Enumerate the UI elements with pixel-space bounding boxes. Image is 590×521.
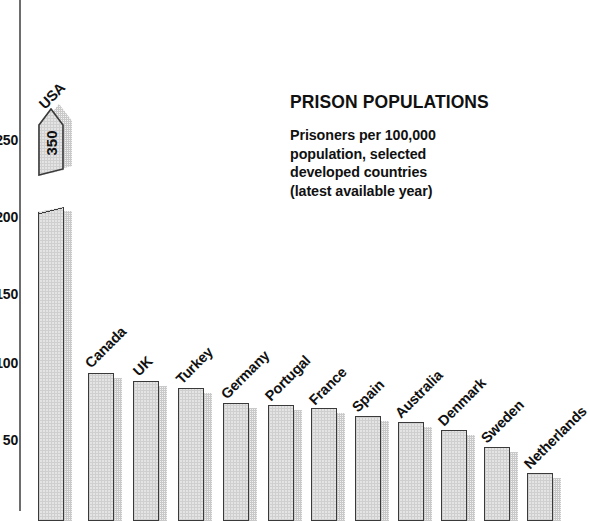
y-axis-tick-labels: 25020015010050 (0, 0, 18, 511)
bar-label-sweden: Sweden (478, 397, 527, 446)
chart-subtitle-line: Prisoners per 100,000 (290, 126, 500, 145)
bar-label-turkey: Turkey (173, 344, 216, 387)
chart-title: PRISON POPULATIONS (290, 92, 500, 113)
bar (527, 473, 553, 521)
plot-area: 350USACanadaUKTurkeyGermanyPortugalFranc… (21, 0, 489, 511)
title-block: PRISON POPULATIONS Prisoners per 100,000… (290, 92, 500, 200)
bar-usa-pointed-cap: 350 (38, 108, 64, 176)
bar-label-spain: Spain (349, 376, 388, 415)
bar-label-canada: Canada (82, 323, 130, 371)
chart-subtitle: Prisoners per 100,000population, selecte… (290, 126, 500, 200)
y-tick-label: 250 (0, 133, 18, 147)
bar (484, 447, 510, 521)
y-tick-label: 100 (0, 356, 18, 370)
bar (355, 416, 381, 521)
y-tick-label: 50 (0, 433, 18, 447)
bar-usa-lower-segment (38, 207, 64, 521)
chart-subtitle-line: population, selected (290, 145, 500, 164)
bar (88, 373, 114, 521)
y-tick-label: 200 (0, 210, 18, 224)
bar (311, 408, 337, 521)
bar (441, 430, 467, 521)
bar (223, 403, 249, 521)
bar (133, 381, 159, 521)
bar-value-label: 350 (43, 131, 60, 156)
bar-label-uk: UK (130, 353, 156, 379)
bar-label-netherlands: Netherlands (521, 403, 590, 472)
bar (268, 405, 294, 521)
bar (178, 388, 204, 521)
bar (398, 422, 424, 521)
chart-subtitle-line: (latest available year) (290, 182, 500, 201)
bar-label-france: France (306, 364, 350, 408)
bar-label-denmark: Denmark (435, 375, 489, 429)
chart-subtitle-line: developed countries (290, 163, 500, 182)
y-tick-label: 150 (0, 287, 18, 301)
